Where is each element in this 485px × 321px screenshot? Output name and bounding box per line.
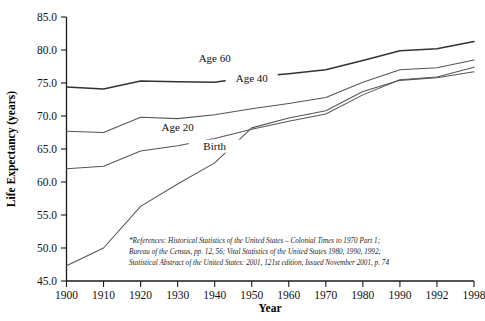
y-axis-title: Life Expectancy (years) [5,91,18,207]
y-tick-label: 45.0 [37,275,57,287]
x-tick-label: 1992 [425,289,448,301]
y-axis-tick-group: 45.050.055.060.065.070.075.080.085.0 [37,11,67,287]
x-tick-label: 1980 [351,289,374,301]
y-tick-label: 85.0 [37,11,57,23]
x-tick-label: 1930 [166,289,189,301]
series-line-age-40 [67,60,475,133]
footnote-line: *References: Historical Statistics of th… [129,237,380,245]
x-tick-label: 1970 [314,289,337,301]
series-label-age-20: Age 20 [162,121,195,133]
x-tick-label: 1960 [277,289,300,301]
x-tick-label: 1998 [463,289,485,301]
series-label-age-40: Age 40 [236,72,269,84]
x-tick-label: 1910 [92,289,115,301]
x-axis-tick-group: 1900191019201930194019501960197019801990… [55,281,485,301]
series-label-age-60: Age 60 [199,52,232,64]
x-tick-label: 1900 [55,289,78,301]
chart-page: 45.050.055.060.065.070.075.080.085.0 190… [0,0,485,321]
y-tick-label: 60.0 [37,176,57,188]
y-tick-label: 80.0 [37,44,57,56]
y-tick-label: 75.0 [37,77,57,89]
footnote-line: Statistical Abstract of the United State… [129,259,389,267]
x-tick-label: 1990 [388,289,411,301]
x-tick-label: 1950 [240,289,263,301]
y-tick-label: 55.0 [37,209,57,221]
life-expectancy-line-chart: 45.050.055.060.065.070.075.080.085.0 190… [0,0,485,321]
footnote-line: Bureau of the Census, pp. 12, 56; Vital … [129,248,381,256]
series-label-birth: Birth [203,140,226,152]
series-label-group: Age 60Age 40Age 20Birth [152,52,278,153]
y-tick-label: 65.0 [37,143,57,155]
x-tick-label: 1940 [203,289,226,301]
x-tick-label: 1920 [129,289,152,301]
y-tick-label: 50.0 [37,242,57,254]
y-tick-label: 70.0 [37,110,57,122]
x-axis-title: Year [259,302,282,314]
footnote-group: *References: Historical Statistics of th… [129,237,389,267]
